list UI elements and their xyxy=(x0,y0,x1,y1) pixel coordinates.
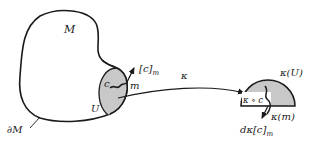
label-image-tangent: dκ[c]m xyxy=(240,124,273,138)
label-boundary: ∂M xyxy=(7,124,23,135)
label-point-m: m xyxy=(130,80,139,91)
label-kappa-m: κ(m) xyxy=(270,111,295,122)
image-tangent-vector xyxy=(262,106,268,118)
label-kappa-c: κ ∘ c xyxy=(242,95,263,105)
label-neighborhood: U xyxy=(91,103,100,114)
label-m-manifold: M xyxy=(63,23,76,36)
label-tangent: [c]m xyxy=(139,63,159,77)
boundary-pointer xyxy=(30,117,40,128)
label-curve-c: c xyxy=(104,78,110,89)
diagram-canvas: M ∂M U c m [c]m κ κ(U) κ ∘ c κ(m) dκ[c]m xyxy=(0,0,318,147)
label-kappa-u: κ(U) xyxy=(279,67,303,78)
label-kappa: κ xyxy=(180,70,188,81)
